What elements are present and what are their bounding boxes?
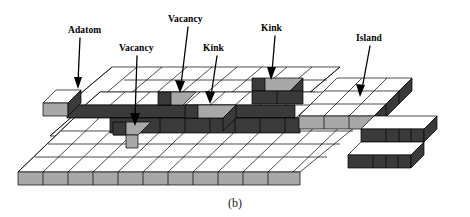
label-vacancy-2: Vacancy <box>168 15 203 25</box>
step-row-right-lower <box>348 142 424 168</box>
figure-caption: (b) <box>0 196 470 211</box>
label-island: Island <box>356 34 382 44</box>
figure-panel: Adatom Vacancy Vacancy Kink Kink Island … <box>0 0 470 217</box>
label-vacancy-1: Vacancy <box>119 44 154 54</box>
label-kink-1: Kink <box>203 44 224 54</box>
front-face-row-upper <box>18 172 300 185</box>
label-kink-2: Kink <box>261 24 282 34</box>
label-adatom: Adatom <box>68 26 101 36</box>
ledge-wall-upper <box>67 105 295 118</box>
lattice-blocks <box>18 67 437 185</box>
ledge-step-upper <box>252 91 303 104</box>
arrow-adatom <box>74 38 82 89</box>
step-row-right-upper <box>361 116 437 142</box>
